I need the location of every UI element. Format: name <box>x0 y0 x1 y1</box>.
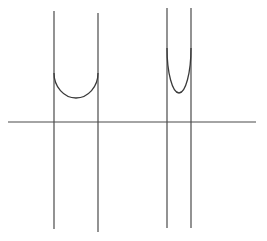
wide-u-curve <box>54 73 98 98</box>
narrow-u-curve <box>167 48 191 93</box>
diagram-canvas <box>0 0 267 241</box>
u-curves <box>54 48 191 98</box>
vertical-asymptotes <box>54 8 191 232</box>
